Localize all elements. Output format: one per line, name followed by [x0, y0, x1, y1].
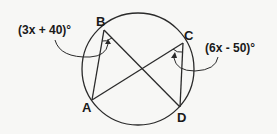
angle-b-expression: (3x + 40)°	[18, 23, 71, 37]
point-label-a: A	[82, 100, 92, 115]
callout-c	[174, 57, 218, 71]
arrowhead-b	[105, 39, 111, 44]
inscribed-angles-diagram: B C A D (3x + 40)° (6x - 50)°	[0, 0, 277, 134]
angle-c-expression: (6x - 50)°	[205, 41, 255, 55]
segment-ba	[92, 30, 104, 100]
circle	[82, 13, 194, 125]
callout-b	[55, 40, 108, 57]
point-label-c: C	[184, 28, 194, 43]
point-label-d: D	[177, 110, 186, 125]
arrowhead-c	[171, 52, 177, 58]
angle-arc-c	[173, 49, 182, 52]
segment-ca	[92, 43, 183, 100]
point-label-b: B	[96, 14, 105, 29]
